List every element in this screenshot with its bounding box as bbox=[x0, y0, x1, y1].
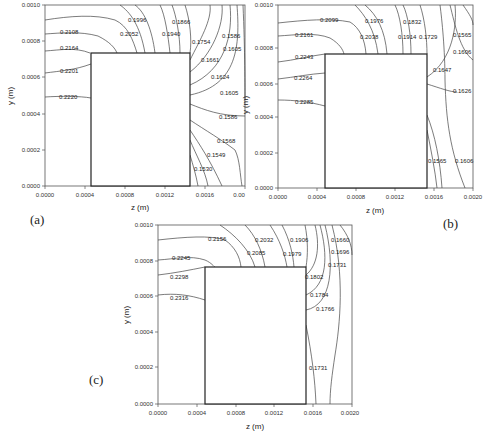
contour-label: 0.1832 bbox=[403, 19, 422, 25]
y-axis-label: y (m) bbox=[122, 306, 131, 325]
x-axis-label: z (m) bbox=[246, 422, 265, 431]
contour-label: 0.2161 bbox=[295, 32, 314, 38]
contour-label: 0.1914 bbox=[398, 34, 417, 40]
x-tick: 0.0008 bbox=[347, 194, 366, 200]
contour-label: 0.1568 bbox=[217, 138, 236, 144]
y-tick: 0.0000 bbox=[255, 185, 274, 191]
contour-label: 0.2164 bbox=[60, 45, 79, 51]
x-axis: 0.0000 0.0004 0.0008 0.0012 0.0016 0.002… bbox=[149, 404, 360, 431]
contour-label: 0.1696 bbox=[331, 249, 350, 255]
contour-label: 0.1606 bbox=[453, 49, 472, 55]
x-axis-label: z (m) bbox=[366, 206, 385, 215]
y-axis: 0.0010 0.0008 0.0006 0.0004 0.0002 0.000… bbox=[122, 222, 158, 407]
x-tick: 0.0020 bbox=[341, 410, 360, 416]
x-axis: 0.0000 0.0004 0.0008 0.0012 0.0016 0.002… bbox=[269, 188, 483, 215]
contour-label: 0.2285 bbox=[295, 99, 314, 105]
y-tick: 0.0000 bbox=[135, 401, 154, 407]
x-tick: 0.0012 bbox=[265, 410, 284, 416]
contour-label: 0.1530 bbox=[194, 166, 213, 172]
x-tick: 0.0004 bbox=[308, 194, 327, 200]
contour-plot-a: 0.0010 0.0008 0.0006 0.0004 0.0002 0.000… bbox=[0, 0, 250, 215]
y-tick: 0.0006 bbox=[22, 74, 41, 80]
y-tick: 0.0002 bbox=[255, 150, 274, 156]
contour-label: 0.1866 bbox=[172, 19, 191, 25]
contour-label: 0.1565 bbox=[428, 158, 447, 164]
y-tick: 0.0008 bbox=[255, 45, 274, 51]
contour-label: 0.2052 bbox=[120, 31, 139, 37]
plot-c-svg: 0.0010 0.0008 0.0006 0.0004 0.0002 0.000… bbox=[100, 215, 360, 430]
x-tick: 0.0012 bbox=[386, 194, 405, 200]
contour-label: 0.2099 bbox=[320, 17, 339, 23]
contour-label: 0.1605 bbox=[220, 90, 239, 96]
x-tick: 0.00 bbox=[233, 192, 245, 198]
contour-label: 0.2038 bbox=[360, 34, 379, 40]
y-tick: 0.0006 bbox=[135, 293, 154, 299]
x-tick: 0.0000 bbox=[36, 192, 55, 198]
contour-label: 0.2243 bbox=[295, 54, 314, 60]
y-tick: 0.0008 bbox=[135, 258, 154, 264]
y-tick: 0.0002 bbox=[135, 364, 154, 370]
contour-label: 0.1565 bbox=[453, 32, 472, 38]
contour-label: 0.1661 bbox=[201, 57, 220, 63]
contour-label: 0.1976 bbox=[365, 18, 384, 24]
y-tick: 0.0004 bbox=[135, 329, 154, 335]
y-axis-label: y (m) bbox=[241, 96, 250, 115]
contour-plot-c: 0.0010 0.0008 0.0006 0.0004 0.0002 0.000… bbox=[100, 215, 360, 430]
contour-label: 0.1624 bbox=[211, 74, 230, 80]
panel-tag-a: (a) bbox=[30, 212, 44, 228]
y-tick: 0.0002 bbox=[22, 147, 41, 153]
x-tick: 0.0004 bbox=[188, 410, 207, 416]
x-axis: 0.0000 0.0004 0.0008 0.0012 0.0016 0.00 … bbox=[36, 186, 246, 212]
plot-a-svg: 0.0010 0.0008 0.0006 0.0004 0.0002 0.000… bbox=[0, 0, 250, 215]
y-axis-label: y (m) bbox=[6, 87, 15, 106]
y-tick: 0.0008 bbox=[22, 38, 41, 44]
x-axis-label: z (m) bbox=[131, 203, 150, 212]
y-tick: 0.0010 bbox=[135, 222, 154, 228]
contour-label: 0.2085 bbox=[247, 250, 266, 256]
contour-label: 0.1940 bbox=[162, 31, 181, 37]
plot-b-svg: 0.0010 0.0008 0.0006 0.0004 0.0002 0.000… bbox=[245, 0, 493, 215]
contour-label: 0.1660 bbox=[331, 237, 350, 243]
panel-tag-c: (c) bbox=[89, 372, 103, 388]
contour-label: 0.1586 bbox=[222, 33, 241, 39]
contour-plot-b: 0.0010 0.0008 0.0006 0.0004 0.0002 0.000… bbox=[245, 0, 493, 215]
contour-label: 0.2298 bbox=[170, 274, 189, 280]
contour-label: 0.1731 bbox=[328, 262, 347, 268]
x-tick: 0.0020 bbox=[464, 194, 483, 200]
contour-label: 0.1996 bbox=[128, 17, 147, 23]
x-tick: 0.0016 bbox=[196, 192, 215, 198]
solid-block bbox=[91, 53, 190, 186]
y-axis: 0.0010 0.0008 0.0006 0.0004 0.0002 0.000… bbox=[6, 2, 45, 189]
y-tick: 0.0004 bbox=[22, 111, 41, 117]
contour-label: 0.1586 bbox=[219, 114, 238, 120]
y-tick: 0.0000 bbox=[22, 183, 41, 189]
contour-label: 0.2032 bbox=[255, 237, 274, 243]
panel-tag-b: (b) bbox=[443, 216, 458, 232]
contour-label: 0.1729 bbox=[419, 34, 438, 40]
contour-label: 0.1626 bbox=[453, 88, 472, 94]
contour-label: 0.1766 bbox=[316, 306, 335, 312]
x-tick: 0.0008 bbox=[227, 410, 246, 416]
contour-label: 0.1802 bbox=[305, 274, 324, 280]
solid-block bbox=[325, 54, 427, 188]
contour-label: 0.2264 bbox=[294, 75, 313, 81]
contour-label: 0.1605 bbox=[223, 46, 242, 52]
contour-label: 0.2220 bbox=[59, 94, 78, 100]
contour-label: 0.2201 bbox=[60, 68, 79, 74]
contour-label: 0.1906 bbox=[290, 237, 309, 243]
solid-block bbox=[205, 267, 306, 404]
contour-label: 0.1784 bbox=[310, 292, 329, 298]
contour-label: 0.1606 bbox=[455, 158, 474, 164]
contour-label: 0.1979 bbox=[283, 251, 302, 257]
contour-label: 0.2316 bbox=[170, 295, 189, 301]
contour-label: 0.2245 bbox=[172, 255, 191, 261]
x-tick: 0.0012 bbox=[156, 192, 175, 198]
x-tick: 0.0016 bbox=[304, 410, 323, 416]
x-tick: 0.0000 bbox=[269, 194, 288, 200]
x-tick: 0.0016 bbox=[425, 194, 444, 200]
x-tick: 0.0000 bbox=[149, 410, 168, 416]
x-tick: 0.0004 bbox=[76, 192, 95, 198]
contour-label: 0.2108 bbox=[60, 29, 79, 35]
y-tick: 0.0006 bbox=[255, 81, 274, 87]
contour-label: 0.1754 bbox=[192, 39, 211, 45]
